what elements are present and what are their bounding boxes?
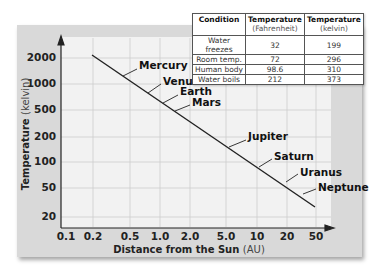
x-axis-title: Distance from the Sun [113, 244, 239, 255]
cell-condition: Room temp. [193, 55, 246, 65]
planet-label-jupiter: Jupiter [248, 130, 288, 142]
planet-label-mars: Mars [192, 96, 221, 108]
table-row: Room temp. 72 296 [193, 55, 364, 65]
header-condition: Condition [193, 14, 246, 36]
x-tick-20: 20 [272, 230, 302, 242]
header-fahrenheit: Temperature(Fahrenheit) [246, 14, 305, 36]
cell-kelvin: 310 [304, 65, 363, 75]
cell-kelvin: 296 [304, 55, 363, 65]
cell-fahrenheit: 212 [246, 75, 305, 85]
x-tick-0.1: 0.1 [51, 230, 81, 242]
y-axis-title: Temperature [20, 118, 31, 190]
cell-condition: Water freezes [193, 36, 246, 55]
x-tick-1.0: 1.0 [145, 230, 175, 242]
planet-label-mercury: Mercury [139, 59, 187, 71]
planet-label-saturn: Saturn [274, 150, 314, 162]
x-tick-0.5: 0.5 [115, 230, 145, 242]
x-tick-10: 10 [242, 230, 272, 242]
x-tick-5.0: 5.0 [211, 230, 241, 242]
table-row: Water boils 212 373 [193, 75, 364, 85]
cell-fahrenheit: 98.6 [246, 65, 305, 75]
cell-condition: Human body [193, 65, 246, 75]
header-kelvin: Temperature(kelvin) [304, 14, 363, 36]
y-tick-2000: 2000 [16, 51, 56, 63]
y-axis-label: Temperature (kelvin) [20, 78, 31, 191]
x-axis-unit: (AU) [243, 244, 265, 255]
planet-label-uranus: Uranus [300, 166, 342, 178]
cell-kelvin: 199 [304, 36, 363, 55]
cell-kelvin: 373 [304, 75, 363, 85]
x-tick-0.2: 0.2 [78, 230, 108, 242]
table-row: Human body 98.6 310 [193, 65, 364, 75]
cell-fahrenheit: 32 [246, 36, 305, 55]
x-tick-50: 50 [301, 230, 331, 242]
planet-label-neptune: Neptune [318, 181, 369, 193]
cell-fahrenheit: 72 [246, 55, 305, 65]
table-header-row: Condition Temperature(Fahrenheit) Temper… [193, 14, 364, 36]
table-row: Water freezes 32 199 [193, 36, 364, 55]
x-tick-2.0: 2.0 [175, 230, 205, 242]
x-axis-label: Distance from the Sun (AU) [113, 244, 265, 255]
cell-condition: Water boils [193, 75, 246, 85]
temperature-reference-table: Condition Temperature(Fahrenheit) Temper… [192, 13, 364, 85]
y-tick-20: 20 [16, 210, 56, 222]
y-axis-unit: (kelvin) [20, 78, 31, 115]
